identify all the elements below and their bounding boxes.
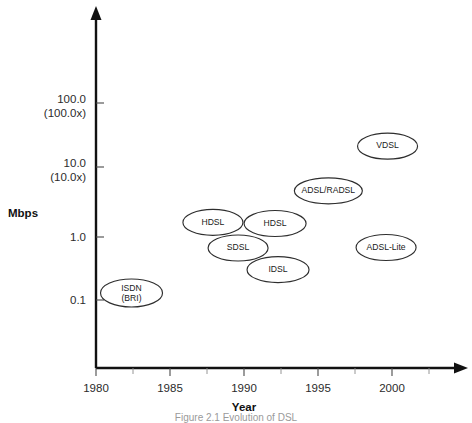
bubble-label: HDSL <box>201 217 224 227</box>
y-axis-title: Mbps <box>8 207 38 219</box>
bubble-label: SDSL <box>227 242 250 252</box>
bubble-label: ADSL-Lite <box>366 242 405 252</box>
x-tick-label-1995: 1995 <box>305 382 331 394</box>
x-tick-label-1985: 1985 <box>157 382 183 394</box>
data-bubble[interactable]: IDSL <box>247 257 309 283</box>
bubble-label-secondary: (BRI) <box>121 293 141 303</box>
figure-container: 100.0 (100.0x) 10.0 (10.0x) 1.0 0.1 1980… <box>0 0 472 423</box>
y-axis-arrowhead <box>91 6 102 20</box>
data-bubble[interactable]: ISDN(BRI) <box>101 279 163 307</box>
data-bubble[interactable]: ADSL-Lite <box>356 235 416 261</box>
y-tick-label-10-line1: 10.0 <box>64 157 86 169</box>
x-axis-tick-labels: 1980 1985 1990 1995 2000 <box>83 382 405 394</box>
x-tick-label-2000: 2000 <box>379 382 405 394</box>
dsl-evolution-chart: 100.0 (100.0x) 10.0 (10.0x) 1.0 0.1 1980… <box>0 0 472 423</box>
y-axis-group <box>91 6 102 368</box>
bubble-label: ISDN <box>121 283 142 293</box>
y-tick-label-10-line2: (10.0x) <box>50 171 86 183</box>
x-axis-group <box>96 363 468 374</box>
bubble-label: VDSL <box>376 140 399 150</box>
data-bubble[interactable]: HDSL <box>183 209 243 235</box>
figure-caption: Figure 2.1 Evolution of DSL <box>0 411 472 423</box>
x-tick-label-1980: 1980 <box>83 382 109 394</box>
y-axis-tick-labels: 100.0 (100.0x) 10.0 (10.0x) 1.0 0.1 <box>44 93 86 306</box>
y-tick-label-100-line2: (100.0x) <box>44 107 86 119</box>
bubble-label: IDSL <box>268 264 287 274</box>
data-bubble[interactable]: ADSL/RADSL <box>294 178 362 204</box>
x-axis-arrowhead <box>454 363 468 374</box>
x-tick-label-1990: 1990 <box>231 382 257 394</box>
y-tick-label-1: 1.0 <box>70 231 86 243</box>
data-bubble[interactable]: VDSL <box>358 133 418 159</box>
y-tick-label-100-line1: 100.0 <box>57 93 86 105</box>
data-bubble[interactable]: HDSL <box>244 211 306 237</box>
y-tick-label-01: 0.1 <box>70 294 86 306</box>
data-bubbles-layer: ISDN(BRI)HDSLSDSLHDSLIDSLADSL/RADSLVDSLA… <box>101 133 418 307</box>
data-bubble[interactable]: SDSL <box>208 235 268 261</box>
x-axis-ticks <box>96 368 429 376</box>
bubble-label: ADSL/RADSL <box>302 185 356 195</box>
bubble-label: HDSL <box>264 218 287 228</box>
